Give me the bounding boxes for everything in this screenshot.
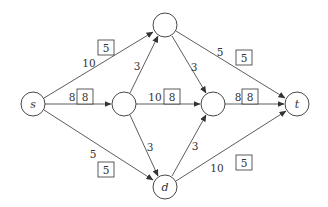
- nodes: s d t: [21, 13, 309, 199]
- capacity-s-d: 5: [90, 148, 97, 160]
- flow-u-v: 8: [169, 91, 176, 103]
- flow-s-u: 8: [82, 91, 89, 103]
- capacity-s-a: 10: [82, 57, 95, 69]
- flow-network-diagram: s d t 10 8 5 3 10 3 3 5 8 3 10 5 8 5 8 5: [0, 0, 328, 207]
- flow-labels: 5 8 5 8 5 8 5: [77, 40, 258, 177]
- node-d-label: d: [161, 181, 168, 194]
- capacity-a-t: 5: [217, 46, 224, 58]
- capacity-d-v: 3: [192, 140, 199, 152]
- flow-v-t: 8: [247, 91, 254, 103]
- flow-a-t: 5: [241, 52, 248, 64]
- flow-s-a: 5: [103, 42, 110, 54]
- node-s-label: s: [30, 98, 36, 111]
- capacity-u-a: 3: [134, 60, 141, 72]
- capacity-v-t: 8: [235, 91, 242, 103]
- capacity-u-d: 3: [147, 141, 154, 153]
- node-a: [153, 13, 177, 37]
- edge-a-v: [172, 36, 206, 93]
- capacity-s-u: 8: [69, 91, 76, 103]
- node-v: [201, 92, 225, 116]
- flow-d-t: 5: [241, 157, 248, 169]
- node-u: [112, 92, 136, 116]
- capacity-d-t: 10: [210, 162, 223, 174]
- node-t-label: t: [295, 98, 300, 111]
- edge-u-d: [130, 115, 158, 176]
- capacity-a-v: 3: [191, 61, 198, 73]
- capacity-u-v: 10: [148, 91, 161, 103]
- edge-d-v: [172, 115, 206, 176]
- flow-s-d: 5: [103, 164, 110, 176]
